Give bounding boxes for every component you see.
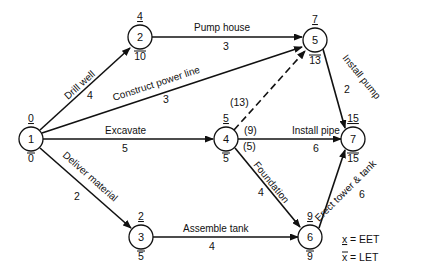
node-1: 1 0 0 bbox=[19, 112, 43, 164]
node-2: 2 4 10 bbox=[128, 10, 152, 62]
legend-let-meaning: = LET bbox=[350, 251, 379, 263]
node-6-let: 9 bbox=[307, 250, 313, 262]
node-4-let: 5 bbox=[223, 152, 229, 164]
edge-label-foundation: Foundation bbox=[251, 159, 291, 205]
edge-note-install-pipe: (9) bbox=[244, 124, 257, 136]
edge-foundation: Foundation 4 (5) bbox=[235, 140, 300, 227]
svg-text:6: 6 bbox=[307, 231, 313, 243]
edge-erect-tower-tank: Erect tower & tank 6 bbox=[313, 150, 379, 228]
edge-label-pump-house: Pump house bbox=[194, 22, 251, 33]
node-1-eet: 0 bbox=[28, 112, 34, 124]
edge-label-install-pipe: Install pipe bbox=[292, 125, 340, 136]
edge-duration-pump-house: 3 bbox=[223, 40, 229, 52]
edge-duration-construct-power-line: 3 bbox=[163, 93, 169, 105]
edge-pump-house: Pump house 3 bbox=[152, 22, 302, 52]
node-3: 3 2 5 bbox=[129, 210, 153, 262]
node-7: 7 15 15 bbox=[341, 112, 365, 164]
edge-duration-erect-tower-tank: 6 bbox=[359, 188, 365, 200]
legend-eet-symbol: x bbox=[342, 233, 348, 245]
edge-duration-deliver-material: 2 bbox=[74, 190, 80, 202]
node-7-let: 15 bbox=[347, 152, 359, 164]
edge-label-construct-power-line: Construct power line bbox=[111, 64, 201, 103]
svg-text:5: 5 bbox=[312, 34, 318, 46]
legend-eet-meaning: = EET bbox=[350, 233, 380, 245]
node-3-eet: 2 bbox=[138, 210, 144, 222]
svg-text:2: 2 bbox=[137, 31, 143, 43]
svg-text:3: 3 bbox=[138, 231, 144, 243]
network-diagram: Drill well 4 Construct power line 3 Exca… bbox=[0, 0, 431, 279]
edge-label-erect-tower-tank: Erect tower & tank bbox=[313, 157, 379, 223]
legend-let-symbol: x bbox=[342, 251, 348, 263]
node-6-eet: 9 bbox=[307, 210, 313, 222]
node-1-let: 0 bbox=[28, 152, 34, 164]
node-4-eet: 5 bbox=[223, 112, 229, 124]
edge-duration-install-pipe: 6 bbox=[313, 142, 319, 154]
edge-label-assemble-tank: Assemble tank bbox=[183, 223, 250, 234]
edge-dummy-4-5: (13) bbox=[230, 51, 305, 130]
node-2-let: 10 bbox=[134, 50, 146, 62]
node-2-eet: 4 bbox=[137, 10, 143, 22]
node-5: 5 7 13 bbox=[303, 13, 327, 66]
edge-drill-well: Drill well 4 bbox=[40, 48, 130, 130]
svg-text:1: 1 bbox=[28, 133, 34, 145]
edge-label-deliver-material: Deliver material bbox=[61, 149, 120, 203]
node-5-eet: 7 bbox=[312, 13, 318, 25]
edge-duration-install-pump: 2 bbox=[344, 83, 350, 95]
edge-label-excavate: Excavate bbox=[105, 125, 147, 136]
edge-duration-assemble-tank: 4 bbox=[209, 240, 215, 252]
node-7-eet: 15 bbox=[347, 112, 359, 124]
node-3-let: 5 bbox=[138, 250, 144, 262]
node-5-let: 13 bbox=[309, 54, 321, 66]
edge-deliver-material: Deliver material 2 bbox=[40, 148, 131, 228]
edge-duration-drill-well: 4 bbox=[87, 89, 93, 101]
edge-note-dummy: (13) bbox=[230, 96, 249, 108]
svg-text:4: 4 bbox=[223, 133, 229, 145]
edge-note-foundation: (5) bbox=[243, 140, 256, 152]
svg-text:7: 7 bbox=[350, 133, 356, 145]
legend: x = EET x = LET bbox=[342, 233, 380, 263]
node-4: 4 5 5 bbox=[214, 112, 238, 164]
edge-duration-excavate: 5 bbox=[122, 142, 128, 154]
edge-duration-foundation: 4 bbox=[258, 186, 264, 198]
edge-assemble-tank: Assemble tank 4 bbox=[153, 223, 298, 252]
